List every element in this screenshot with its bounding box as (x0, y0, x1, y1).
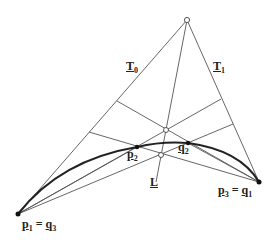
label-T1-sub: 1 (221, 66, 225, 75)
point-p3 (257, 180, 262, 185)
cross-line-4 (18, 124, 233, 214)
label-L: L (150, 176, 158, 188)
label-p3-eq-q1: p3 = q1 (218, 184, 252, 199)
label-T0: T0 (126, 60, 138, 75)
apex-point (184, 17, 189, 22)
label-p3-base: p (218, 183, 225, 197)
intersection-lower (159, 153, 164, 158)
label-q2-base: q (178, 140, 185, 154)
label-q2: q2 (178, 141, 189, 156)
label-p1-base: p (22, 217, 29, 231)
label-q1-sub: 1 (248, 190, 252, 199)
curve (18, 143, 259, 215)
label-p3-eq: = (232, 183, 239, 197)
side-T1 (187, 20, 259, 182)
diagram-canvas (0, 0, 275, 242)
label-q3-sub: 3 (52, 224, 56, 233)
label-T1: T1 (213, 60, 225, 75)
intersection-upper (164, 128, 169, 133)
point-p1 (16, 212, 21, 217)
label-p1-eq-q3: p1 = q3 (22, 218, 56, 233)
label-q2-sub: 2 (185, 147, 189, 156)
label-P2-sub: 2 (134, 154, 138, 163)
label-P2-base: p (127, 147, 134, 161)
chord-p1-p2 (18, 147, 137, 214)
label-p1-sub: 1 (29, 224, 33, 233)
label-L-base: L (150, 175, 158, 189)
label-p3-sub: 3 (225, 190, 229, 199)
label-T0-base: T (126, 59, 134, 73)
label-p1-eq: = (36, 217, 43, 231)
chord-q2-p3 (188, 143, 259, 182)
side-T0 (18, 20, 187, 214)
label-T1-base: T (213, 59, 221, 73)
label-P2: p2 (127, 148, 138, 163)
label-T0-sub: 0 (134, 66, 138, 75)
